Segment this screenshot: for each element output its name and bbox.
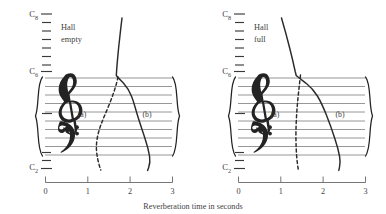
x-tick-1-left: 1 — [86, 187, 90, 196]
figure-caption: Reverberation time in seconds — [143, 202, 242, 211]
curve-a-label-right: (a) — [271, 110, 280, 119]
panel-title-line2-left: empty — [61, 35, 83, 44]
reverberation-figure: C8 C6 C2 — [0, 0, 386, 214]
curve-b-label-left: (b) — [142, 110, 151, 119]
x-tick-3-left: 3 — [170, 187, 174, 196]
x-tick-1-right: 1 — [279, 187, 283, 196]
x-tick-2-right: 2 — [321, 187, 325, 196]
curve-a-label-left: (a) — [78, 110, 87, 119]
x-tick-0-left: 0 — [43, 187, 47, 196]
x-tick-2-left: 2 — [128, 187, 132, 196]
curve-b-label-right: (b) — [335, 110, 344, 119]
figure-svg: C8 C6 C2 — [0, 0, 386, 214]
panel-title-line1-right: Hall — [254, 23, 269, 32]
x-tick-3-right: 3 — [363, 187, 367, 196]
panel-title-line2-right: full — [254, 35, 266, 44]
panel-title-line1-left: Hall — [61, 23, 76, 32]
x-tick-0-right: 0 — [236, 187, 240, 196]
figure-background — [0, 0, 386, 214]
